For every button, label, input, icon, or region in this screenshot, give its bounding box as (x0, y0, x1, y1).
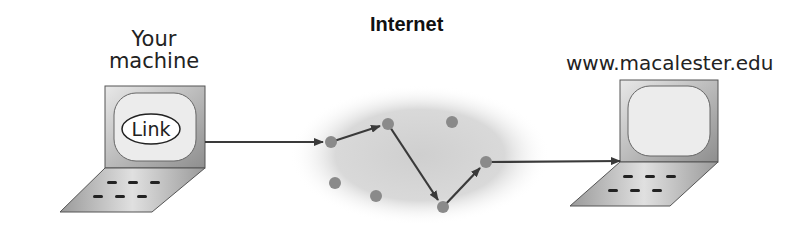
client-laptop (60, 86, 205, 212)
network-diagram: Link (0, 0, 812, 229)
internet-cloud (290, 85, 550, 225)
link-text[interactable]: Link (132, 118, 171, 140)
server-laptop (570, 80, 718, 206)
